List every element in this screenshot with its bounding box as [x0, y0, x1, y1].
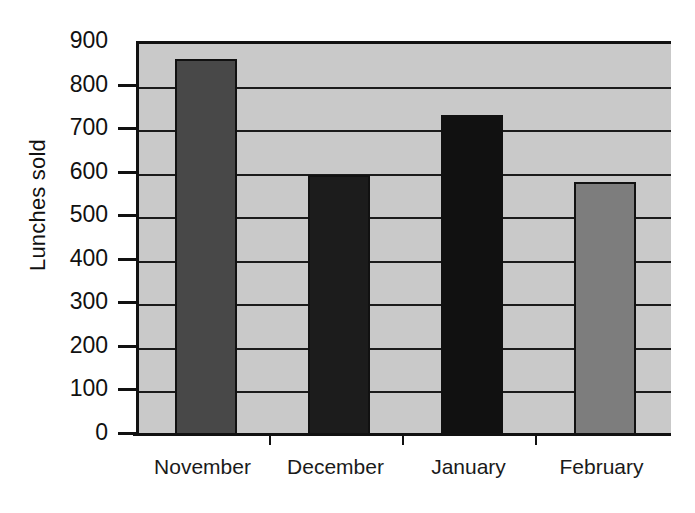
plot-inner	[139, 44, 671, 436]
y-tick-label: 300	[0, 290, 108, 313]
y-tick-label: 900	[0, 29, 108, 52]
y-tick-mark	[118, 171, 136, 174]
y-tick-label: 100	[0, 377, 108, 400]
y-tick-label: 600	[0, 160, 108, 183]
bar-december	[308, 175, 370, 436]
y-tick-label: 200	[0, 334, 108, 357]
y-tick-label: 800	[0, 73, 108, 96]
y-tick-label: 700	[0, 116, 108, 139]
y-tick-mark	[118, 345, 136, 348]
y-tick-mark	[118, 388, 136, 391]
bar-january	[441, 115, 503, 436]
bar-november	[175, 59, 237, 436]
y-tick-mark	[118, 301, 136, 304]
y-tick-mark	[118, 258, 136, 261]
x-tick-mark	[535, 436, 537, 445]
x-axis-label-february: February	[522, 455, 682, 479]
bar-february	[574, 182, 636, 436]
x-tick-mark	[269, 436, 271, 445]
y-tick-mark	[118, 127, 136, 130]
y-tick-mark	[118, 84, 136, 87]
y-tick-mark	[118, 214, 136, 217]
bar-chart: Lunches sold 010020030040050060070080090…	[0, 0, 695, 513]
y-tick-label: 400	[0, 247, 108, 270]
y-tick-label: 500	[0, 203, 108, 226]
y-axis-tick-labels: 0100200300400500600700800900	[0, 0, 126, 513]
plot-area	[136, 41, 671, 436]
x-tick-mark	[402, 436, 404, 445]
y-tick-label: 0	[0, 421, 108, 444]
